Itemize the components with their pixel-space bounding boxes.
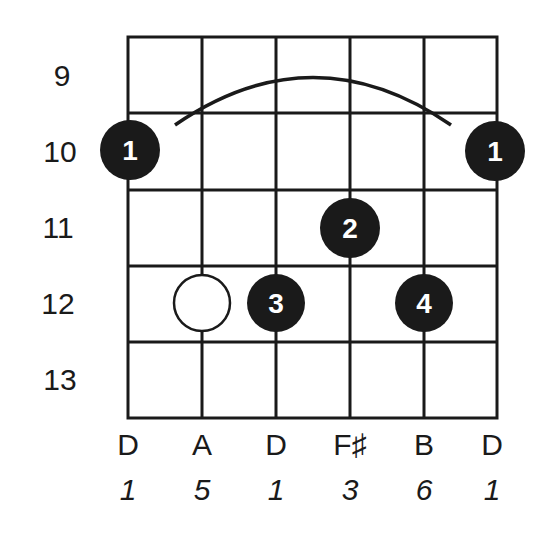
string-note: B	[414, 428, 434, 461]
string-notes: D A D F♯ B D	[117, 428, 503, 461]
string-interval: 5	[194, 473, 211, 506]
string-interval: 1	[120, 473, 137, 506]
finger-dot: 1	[465, 121, 525, 181]
string-interval: 3	[342, 473, 359, 506]
string-note: A	[192, 428, 212, 461]
svg-text:4: 4	[416, 288, 432, 319]
finger-dot: 3	[247, 274, 305, 332]
fret-number: 12	[41, 287, 74, 320]
fretboard-outline	[128, 37, 497, 418]
svg-text:1: 1	[122, 135, 138, 166]
fret-number: 11	[42, 211, 73, 244]
string-note: F♯	[333, 428, 366, 461]
chord-diagram: 9 10 11 12 13 1 1 2 3 4 D A D F♯ B D 1 5	[0, 0, 558, 542]
fret-number: 10	[43, 135, 76, 168]
string-note: D	[265, 428, 287, 461]
fretboard-grid	[128, 37, 497, 418]
open-dot	[174, 275, 230, 331]
finger-dot: 4	[395, 274, 453, 332]
string-intervals: 1 5 1 3 6 1	[120, 473, 501, 506]
string-note: D	[481, 428, 503, 461]
fret-numbers: 9 10 11 12 13	[41, 59, 76, 396]
svg-text:1: 1	[487, 136, 503, 167]
string-interval: 1	[484, 473, 501, 506]
svg-text:2: 2	[342, 213, 358, 244]
finger-dot: 1	[100, 120, 160, 180]
string-interval: 1	[268, 473, 285, 506]
barre-arc	[175, 78, 451, 126]
finger-dot: 2	[320, 198, 380, 258]
fret-number: 9	[54, 59, 71, 92]
string-interval: 6	[416, 473, 433, 506]
fret-number: 13	[43, 363, 76, 396]
svg-text:3: 3	[268, 288, 284, 319]
string-note: D	[117, 428, 139, 461]
